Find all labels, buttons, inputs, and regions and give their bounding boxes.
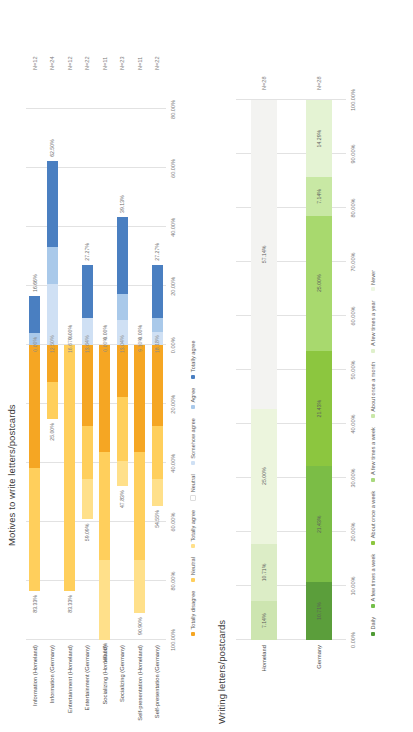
bar-value-left: 47.83% [119, 490, 125, 508]
bar-segment-totally-disagree [152, 345, 163, 425]
legend-item: A few times a week [370, 554, 376, 608]
bar-segment-neutral [64, 345, 75, 591]
axis-tick: 80.00% [170, 572, 176, 591]
legend-swatch [371, 478, 375, 482]
bar-value-left: 83.33% [32, 595, 38, 613]
axis-tick: 20.00% [170, 277, 176, 296]
n-label: N=23 [119, 56, 125, 70]
bar-segment-totally-disagree [134, 345, 145, 452]
bar-value-right: 62.50% [49, 139, 55, 157]
axis-tick: 40.00% [170, 454, 176, 473]
category-label: Self-presentation (Homeland) [137, 645, 143, 732]
legend-label: A few times a week [370, 427, 376, 475]
legend-swatch [371, 632, 375, 636]
bar-segment-totally-agree [117, 461, 128, 487]
bar-value-left: 90.90% [137, 617, 143, 635]
table-row [64, 80, 75, 640]
category-label: Germany [316, 645, 322, 732]
legend-writing: DailyA few times a weekAbout once a week… [370, 270, 376, 636]
bar-value: 21.43% [316, 516, 322, 534]
bar-value: 25.00% [261, 467, 267, 485]
bar-value: 21.43% [316, 400, 322, 418]
bar-segment-totally-agree [99, 560, 110, 640]
chart-motives: Motives to write letters/postcards 83.33… [0, 0, 208, 732]
legend-swatch [191, 544, 195, 548]
n-label: N=11 [137, 57, 143, 70]
bar-segment-totally-disagree [99, 345, 110, 452]
n-label: N=28 [316, 76, 322, 90]
bar-segment-neutral [29, 468, 40, 591]
category-label: Self-presentation (Germany) [154, 645, 160, 732]
bar-value-mid: 13.04% [119, 335, 125, 353]
bar-segment-totally-agree [29, 296, 40, 333]
table-row [152, 80, 163, 640]
legend-swatch [371, 349, 375, 353]
axis-tick: 60.00% [170, 159, 176, 178]
table-row [117, 80, 128, 640]
bar-value-right: 16.66% [32, 274, 38, 292]
legend-swatch [191, 632, 195, 636]
legend-motives: Totally disagreeNeutralTotally agreeNeut… [190, 340, 196, 636]
legend-label: Totally agree [190, 510, 196, 542]
legend-item: Totally disagree [190, 591, 196, 636]
bar-segment-totally-agree [82, 265, 93, 319]
bar-value-right: 0.00% [137, 325, 143, 340]
bar-segment-totally-disagree [82, 345, 93, 425]
bar-value: 25.00% [316, 274, 322, 292]
bar-segment-totally-agree [117, 217, 128, 294]
axis-tick: 40.00% [170, 218, 176, 237]
legend-item: Somehow agree [190, 418, 196, 465]
legend-item: A few times a week [370, 427, 376, 481]
legend-label: Somehow agree [190, 418, 196, 459]
rotated-page-canvas: Motives to write letters/postcards 83.33… [0, 0, 413, 732]
table-row: 10.71%21.43%21.43%25.00%7.14%14.29% [306, 100, 332, 640]
legend-swatch [190, 495, 196, 501]
legend-item: Neutral [190, 557, 196, 582]
bar-value-mid: 12.50% [49, 335, 55, 353]
bar-segment-agree [152, 318, 163, 331]
legend-swatch [191, 578, 195, 582]
legend-item: About once a week [370, 491, 376, 545]
legend-label: Neutral [190, 474, 196, 492]
axis-tick: 60.00% [170, 513, 176, 532]
table-row: 7.14%10.71%25.00%57.14% [251, 100, 277, 640]
bar-segment-totally-agree [152, 265, 163, 319]
axis-tick: 100.00% [170, 629, 176, 651]
legend-swatch [371, 287, 375, 291]
bar-segment-neutral [47, 382, 58, 419]
axis-tick: 0.00% [170, 337, 176, 353]
axis-tick: 50.00% [350, 361, 356, 380]
chart-title-writing: Writing letters/postcards [216, 620, 227, 724]
bar-value-right: 0.00% [102, 325, 108, 340]
legend-label: Agree [190, 388, 196, 403]
bar-value-right: 27.27% [154, 243, 160, 261]
bar-value-left: 25.00% [49, 423, 55, 441]
n-label: N=28 [261, 76, 267, 90]
table-row [134, 80, 145, 640]
bar-segment-totally-agree [134, 560, 145, 614]
axis-tick: 100.00% [350, 89, 356, 111]
bar-value-mid: 0.00% [32, 337, 38, 352]
bar-value-right: 0.00% [67, 325, 73, 340]
category-label: Information (Homeland) [32, 645, 38, 732]
axis-tick: 30.00% [350, 469, 356, 488]
legend-item: Never [370, 270, 376, 291]
bar-value-mid: 13.64% [84, 335, 90, 353]
bar-segment-agree [117, 294, 128, 320]
bar-segment-totally-disagree [29, 345, 40, 468]
legend-item: About once a month [370, 362, 376, 419]
bar-value-right: 27.27% [84, 243, 90, 261]
bar-segment-totally-agree [47, 161, 58, 247]
legend-swatch [371, 604, 375, 608]
legend-item: Totally agree [190, 340, 196, 378]
bar-value-left: 83.33% [67, 595, 73, 613]
bar-segment-neutral [117, 397, 128, 461]
bar-value-mid: 18.18% [154, 335, 160, 353]
n-label: N=22 [154, 56, 160, 70]
category-label: Socializing (Germany) [119, 645, 125, 732]
axis-tick: 40.00% [350, 415, 356, 434]
legend-swatch [191, 461, 195, 465]
legend-item: A few times a year [370, 300, 376, 352]
legend-label: A few times a week [370, 554, 376, 602]
n-label: N=12 [32, 56, 38, 70]
